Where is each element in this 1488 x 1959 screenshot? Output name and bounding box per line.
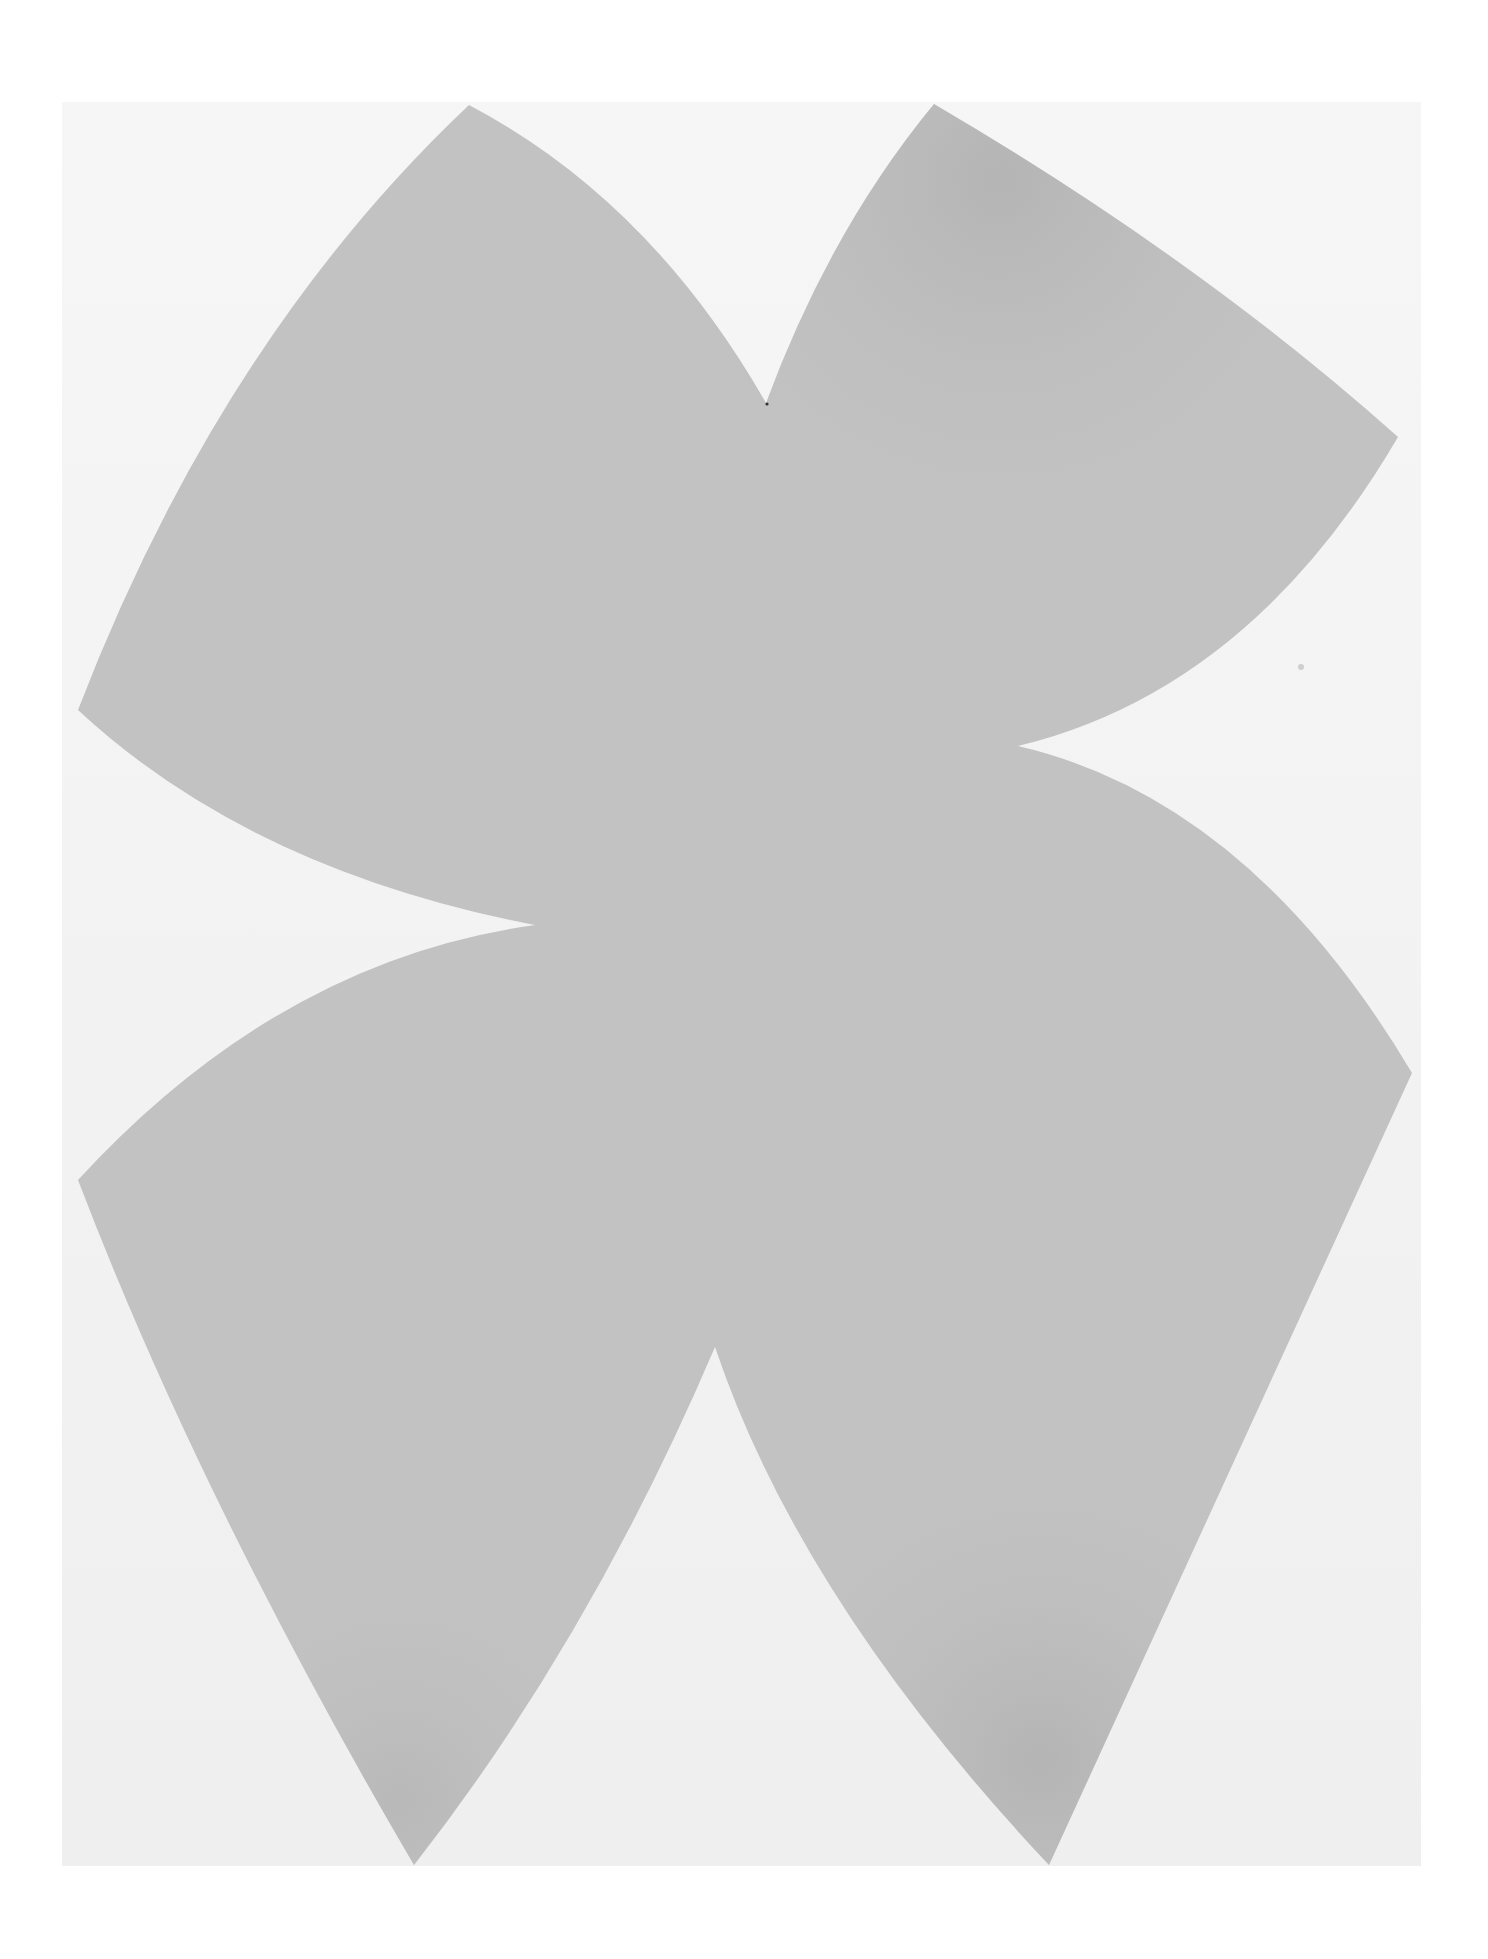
paint-speck <box>765 402 768 405</box>
artwork-canvas <box>0 0 1488 1959</box>
canvas-blemish <box>1298 664 1304 670</box>
